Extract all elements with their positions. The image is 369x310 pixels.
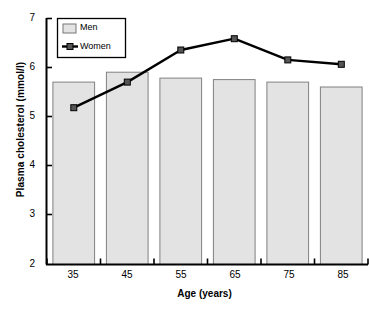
legend-label-women: Women [80,41,111,51]
marker-85 [338,61,344,67]
marker-75 [285,57,291,63]
marker-45 [124,79,130,85]
marker-35 [71,105,77,111]
marker-55 [178,47,184,53]
plot-area [0,0,369,310]
bar-55 [160,78,202,264]
chart-figure: Plasma cholesterol (mmol/l) Age (years) … [0,0,369,310]
marker-65 [231,36,237,42]
bar-45 [106,72,148,264]
bar-65 [213,80,255,265]
bar-75 [267,82,309,264]
bar-85 [320,87,362,265]
men-bars [53,72,362,264]
legend-label-men: Men [80,22,98,32]
